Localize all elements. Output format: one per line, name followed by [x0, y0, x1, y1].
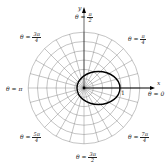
angle-label-7pi-over-4: θ = 7π4 — [128, 132, 149, 143]
tick-one: 1 — [121, 90, 125, 96]
angle-label-3pi-over-4: θ = 3π4 — [20, 32, 41, 43]
angle-label-3pi-over-2: θ = 3π2 — [76, 152, 97, 163]
angle-label-pi: θ = π — [6, 86, 22, 92]
angle-label-0: θ = 0 — [148, 91, 164, 97]
angle-label-pi-over-2: θ = π2 — [75, 12, 93, 23]
angle-label-5pi-over-4: θ = 5π4 — [20, 132, 41, 143]
angle-label-pi-over-4: θ = π4 — [128, 34, 146, 45]
y-axis-label: y — [78, 5, 81, 11]
pole-point — [83, 87, 86, 90]
x-axis-label: x — [157, 80, 160, 86]
